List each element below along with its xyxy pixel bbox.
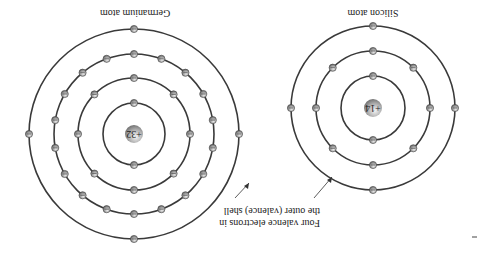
atom-diagram: +32 +14 Germanium atom Silicon atom Four… <box>0 0 481 254</box>
annotation-line-2: the outer (valence) shell <box>223 205 320 217</box>
nucleus-charge: +32 <box>126 129 142 140</box>
germanium-atom: +32 <box>25 25 242 242</box>
nucleus-charge: +14 <box>365 103 381 114</box>
annotation-line-1: Four valence electrons in <box>219 218 320 229</box>
silicon-title: Silicon atom <box>347 8 398 19</box>
silicon-atom: +14 <box>287 22 458 193</box>
germanium-title: Germanium atom <box>100 8 170 19</box>
valence-annotation: Four valence electrons in the outer (val… <box>219 177 332 229</box>
